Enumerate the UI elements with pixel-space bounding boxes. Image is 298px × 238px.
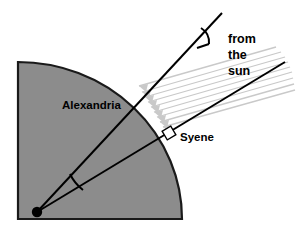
label-alexandria: Alexandria xyxy=(62,99,121,111)
label-from-sun-line-1: from xyxy=(228,32,256,46)
sun-ray xyxy=(160,84,294,122)
label-syene: Syene xyxy=(180,131,214,143)
angle-arc-at-alexandria-closing-stroke xyxy=(197,44,209,48)
sun-ray xyxy=(145,57,285,97)
earth-center-dot xyxy=(32,207,42,217)
label-from-sun-line-2: the xyxy=(228,48,247,62)
angle-arc-at-alexandria xyxy=(201,28,209,44)
label-from-sun-line-3: sun xyxy=(228,64,250,78)
sun-ray xyxy=(142,52,281,92)
sun-ray xyxy=(154,72,292,112)
sun-ray xyxy=(148,62,288,102)
earth-quarter-shape xyxy=(18,62,182,219)
eratosthenes-diagram: Alexandria Syene from the sun xyxy=(0,0,298,238)
sun-rays-group xyxy=(139,47,295,127)
